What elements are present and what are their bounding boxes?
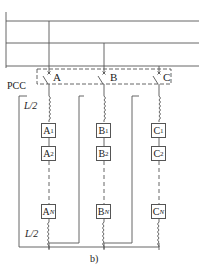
inductor-top-label: L/2: [24, 101, 37, 111]
pcc-label: PCC: [7, 81, 26, 91]
module-c2: C2: [151, 146, 166, 161]
module-b1: B1: [96, 123, 111, 138]
loop-c-outer: [19, 96, 159, 247]
cascaded-h-bridge-star-diagram: A B C PCC L/2 L/2 b) A1 A2 AN B1 B2 BN C…: [0, 0, 199, 267]
module-cn: CN: [151, 204, 166, 219]
switch-a-icon: [43, 76, 48, 84]
inductor-top-a-icon: [49, 96, 51, 122]
module-bn: BN: [96, 204, 111, 219]
inductor-top-c-icon: [159, 96, 161, 122]
loop-a-b: [49, 96, 84, 249]
switch-b-icon: [98, 76, 103, 84]
module-b2: B2: [96, 146, 111, 161]
phase-label-a: A: [53, 72, 61, 83]
switch-c-icon: [153, 76, 158, 84]
module-a1: A1: [41, 123, 56, 138]
figure-caption: b): [90, 254, 98, 264]
module-a2: A2: [41, 146, 56, 161]
module-an: AN: [41, 204, 56, 219]
phase-label-c: C: [163, 72, 170, 83]
loop-b-c: [104, 96, 139, 249]
phase-label-b: B: [110, 72, 117, 83]
inductor-bottom-label: L/2: [25, 229, 38, 239]
module-c1: C1: [151, 123, 166, 138]
inductor-top-b-icon: [104, 96, 106, 122]
